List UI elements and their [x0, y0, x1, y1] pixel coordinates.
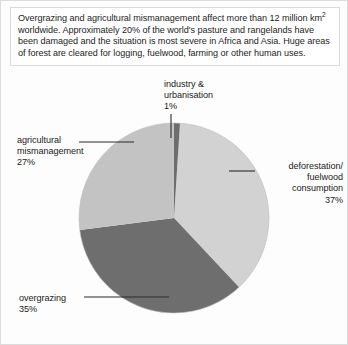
slice-label-deforestation: deforestation/ fuelwood consumption 37%	[257, 161, 343, 206]
pie-chart-figure: Overgrazing and agricultural mismanageme…	[0, 0, 348, 345]
slice-label-overgrazing: overgrazing 35%	[19, 293, 109, 315]
slice-label-industry: industry & urbanisation 1%	[164, 79, 259, 113]
slice-label-agricultural: agricultural mismanagement 27%	[17, 135, 113, 169]
